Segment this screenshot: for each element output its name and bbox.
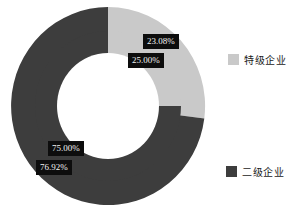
data-label-inner-second-grade: 75.00% (48, 141, 84, 156)
data-label-inner-special-grade: 25.00% (128, 53, 164, 68)
chart-legend: 特级企业 二级企业 (226, 0, 302, 212)
chart-plot-area: 23.08% 25.00% 75.00% 76.92% (0, 0, 215, 212)
legend-swatch-special-grade (228, 54, 239, 65)
legend-swatch-second-grade (226, 166, 237, 177)
legend-item-special-grade[interactable]: 特级企业 (228, 52, 286, 67)
doughnut-chart: 23.08% 25.00% 75.00% 76.92% 特级企业 二级企业 (0, 0, 302, 212)
legend-label-special-grade: 特级企业 (244, 52, 286, 67)
data-label-outer-special-grade: 23.08% (143, 34, 179, 49)
legend-label-second-grade: 二级企业 (242, 164, 284, 179)
data-label-outer-second-grade: 76.92% (36, 160, 72, 175)
legend-item-second-grade[interactable]: 二级企业 (226, 164, 284, 179)
